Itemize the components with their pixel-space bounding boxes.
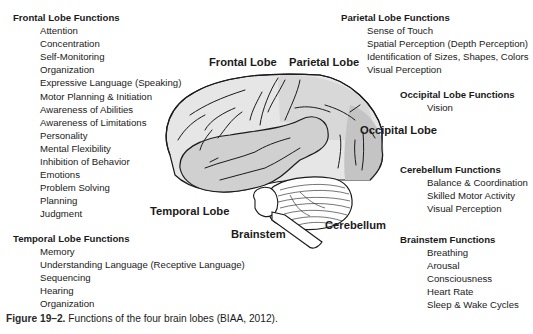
list-item: Organization	[40, 297, 245, 310]
figure-number: Figure 19–2.	[6, 313, 65, 324]
frontal-lobe-label: Frontal Lobe	[209, 56, 277, 68]
list-item: Arousal	[427, 259, 519, 272]
occipital-functions-block: Occipital Lobe Functions Vision	[400, 88, 515, 114]
temporal-functions-list: Memory Understanding Language (Receptive…	[13, 245, 245, 310]
cerebellum-functions-block: Cerebellum Functions Balance & Coordinat…	[400, 163, 528, 215]
list-item: Attention	[40, 24, 181, 37]
list-item: Sequencing	[40, 271, 245, 284]
list-item: Concentration	[40, 37, 181, 50]
list-item: Breathing	[427, 246, 519, 259]
list-item: Sleep & Wake Cycles	[427, 298, 519, 311]
list-item: Visual Perception	[427, 202, 528, 215]
list-item: Understanding Language (Receptive Langua…	[40, 258, 245, 271]
frontal-functions-title: Frontal Lobe Functions	[13, 11, 181, 24]
cerebellum-functions-title: Cerebellum Functions	[400, 163, 528, 176]
brainstem-functions-list: Breathing Arousal Consciousness Heart Ra…	[400, 246, 519, 311]
figure-caption: Figure 19–2. Functions of the four brain…	[6, 313, 278, 324]
occipital-functions-title: Occipital Lobe Functions	[400, 88, 515, 101]
occipital-lobe-label: Occipital Lobe	[360, 124, 437, 136]
parietal-lobe-label: Parietal Lobe	[289, 56, 359, 68]
list-item: Consciousness	[427, 272, 519, 285]
brainstem-functions-title: Brainstem Functions	[400, 233, 519, 246]
list-item: Sense of Touch	[367, 24, 529, 37]
temporal-lobe-label: Temporal Lobe	[150, 205, 229, 217]
list-item: Spatial Perception (Depth Perception)	[367, 37, 529, 50]
brainstem-functions-block: Brainstem Functions Breathing Arousal Co…	[400, 233, 519, 312]
list-item: Vision	[427, 101, 515, 114]
list-item: Hearing	[40, 284, 245, 297]
parietal-functions-title: Parietal Lobe Functions	[341, 11, 529, 24]
list-item: Heart Rate	[427, 285, 519, 298]
caption-text: Functions of the four brain lobes (BIAA,…	[68, 313, 278, 324]
brainstem-label: Brainstem	[231, 228, 286, 240]
list-item: Skilled Motor Activity	[427, 189, 528, 202]
occipital-functions-list: Vision	[400, 101, 515, 114]
list-item: Balance & Coordination	[427, 176, 528, 189]
cerebellum-functions-list: Balance & Coordination Skilled Motor Act…	[400, 176, 528, 215]
cerebellum-label: Cerebellum	[325, 219, 386, 231]
